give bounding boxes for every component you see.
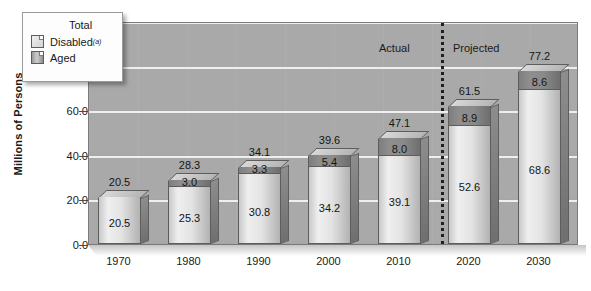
bar-value-aged: 68.6: [518, 164, 561, 176]
bar-value-disabled: 8.6: [518, 76, 561, 88]
legend-item-aged: Aged: [31, 51, 122, 64]
chart-root: Millions of Persons 0.020.040.060.080.01…: [0, 0, 591, 291]
bar-group[interactable]: 52.68.961.5: [448, 22, 501, 244]
bar-value-aged: 34.2: [308, 202, 351, 214]
bar-group[interactable]: 30.83.334.1: [238, 22, 291, 244]
legend-swatch-aged-icon: [31, 51, 44, 64]
bar-stack-2020[interactable]: [448, 107, 491, 244]
x-tick-label: 1980: [154, 255, 224, 267]
bar-group[interactable]: 39.18.047.1: [378, 22, 431, 244]
phase-divider-line: [441, 23, 444, 244]
y-tick-mark: [79, 156, 88, 157]
bar-side-face: [141, 195, 149, 244]
bar-total-label: 47.1: [378, 117, 421, 129]
bar-side-face: [421, 136, 429, 244]
legend-label-aged: Aged: [50, 52, 76, 64]
bar-value-disabled: 5.4: [308, 156, 351, 168]
bar-value-disabled: 8.0: [378, 143, 421, 155]
y-tick-mark: [79, 111, 88, 112]
x-tick-label: 2020: [434, 255, 504, 267]
bar-value-aged: 25.3: [168, 212, 211, 224]
bar-stack-2030[interactable]: [518, 72, 561, 244]
plot-area: Actual Projected 20.520.525.33.028.330.8…: [88, 22, 578, 245]
y-tick-mark: [79, 200, 88, 201]
bar-side-face: [281, 165, 289, 244]
x-tick-label: 2000: [294, 255, 364, 267]
x-tick-label: 2010: [364, 255, 434, 267]
bar-group[interactable]: 25.33.028.3: [168, 22, 221, 244]
bar-value-aged: 52.6: [448, 181, 491, 193]
legend: Total Disabled(a) Aged: [22, 12, 123, 82]
bar-value-disabled: 3.0: [168, 176, 211, 188]
x-tick-label: 2030: [504, 255, 574, 267]
bar-value-aged: 39.1: [378, 196, 421, 208]
bar-total-label: 61.5: [448, 85, 491, 97]
legend-swatch-disabled-icon: [31, 35, 44, 48]
bar-value-aged: 30.8: [238, 206, 281, 218]
bar-total-label: 77.2: [518, 50, 561, 62]
bar-total-label: 20.5: [98, 176, 141, 188]
legend-superscript-disabled: (a): [93, 38, 102, 45]
legend-item-disabled: Disabled(a): [31, 35, 122, 48]
x-tick-label: 1970: [84, 255, 154, 267]
bar-group[interactable]: 34.25.439.6: [308, 22, 361, 244]
bar-value-aged: 20.5: [98, 217, 141, 229]
bar-value-disabled: 3.3: [238, 163, 281, 175]
bar-side-face: [211, 178, 219, 244]
bar-side-face: [561, 69, 569, 244]
bar-group[interactable]: 68.68.677.2: [518, 22, 571, 244]
bar-side-face: [491, 104, 499, 244]
bar-total-label: 28.3: [168, 159, 211, 171]
bar-total-label: 34.1: [238, 146, 281, 158]
bar-value-disabled: 8.9: [448, 112, 491, 124]
legend-label-disabled: Disabled: [50, 36, 93, 48]
y-tick-mark: [79, 245, 88, 246]
bar-stack-2000[interactable]: [308, 156, 351, 244]
x-tick-label: 1990: [224, 255, 294, 267]
bar-total-label: 39.6: [308, 134, 351, 146]
bar-side-face: [351, 152, 359, 244]
legend-title: Total: [23, 19, 122, 31]
